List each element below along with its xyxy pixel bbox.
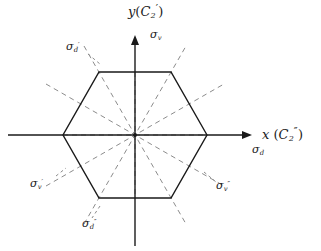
sigma-d-double-prime-mark: ″ [94, 218, 97, 226]
y-axis-paren-close: ) [158, 4, 163, 19]
sigma-v-double-prime-mark: ″ [228, 180, 231, 188]
sigma-d-prime-symbol: σ [66, 40, 74, 53]
origin-point [133, 133, 137, 137]
sigma-d-prime-label: σd′ [66, 41, 80, 54]
sigma-v-subscript: v [158, 34, 162, 42]
y-axis-label: y(C2′) [128, 3, 163, 20]
sigma-v-prime-label: σv′ [30, 178, 43, 191]
sigma-v-symbol: σ [150, 28, 158, 41]
x-axis-label: x (C2″) [262, 126, 303, 143]
leader-sigma-v-prime [56, 168, 66, 176]
sigma-d-prime-mark: ′ [78, 41, 80, 49]
sigma-d-subscript: d [260, 149, 265, 157]
hexagon-symmetry-diagram: y(C2′) σv x (C2″) σd σd′ σv′ σv″ σd″ [0, 0, 321, 251]
x-axis-arrowhead [242, 131, 252, 139]
x-axis-paren-close: ) [298, 127, 303, 142]
sigma-v-double-prime-label: σv″ [216, 180, 230, 193]
sigma-d-symbol: σ [252, 143, 260, 156]
sigma-v-label: σv [150, 29, 162, 42]
leader-sigma-v-dprime [204, 172, 216, 182]
y-axis-c2: C [140, 4, 150, 19]
axes [8, 40, 248, 246]
sigma-d-label: σd [252, 144, 264, 157]
x-axis-c2: C [279, 127, 289, 142]
sigma-v-prime-mark: ′ [42, 178, 44, 186]
sigma-d-double-prime-label: σd″ [82, 218, 97, 231]
sigma-v-double-prime-symbol: σ [216, 179, 224, 192]
sigma-v-prime-symbol: σ [30, 177, 38, 190]
sigma-d-double-prime-symbol: σ [82, 217, 90, 230]
y-axis-arrowhead [131, 35, 139, 45]
